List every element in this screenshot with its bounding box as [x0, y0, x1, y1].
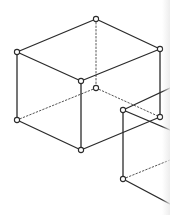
edge — [81, 49, 160, 81]
vertex-point — [14, 117, 19, 122]
right-edge-fade — [162, 0, 170, 215]
vertex-point — [120, 176, 125, 181]
edge — [17, 19, 96, 52]
edge — [17, 52, 81, 81]
hidden-edge — [17, 88, 96, 120]
vertex-point — [14, 49, 19, 54]
edge — [17, 120, 81, 150]
vertex-point — [93, 16, 98, 21]
vertex-point — [78, 78, 83, 83]
wireframe-diagram — [0, 0, 170, 215]
vertex-point — [120, 107, 125, 112]
vertices — [14, 16, 162, 181]
vertex-point — [78, 147, 83, 152]
vertex-point — [93, 85, 98, 90]
edge — [96, 19, 160, 49]
edge — [81, 117, 160, 150]
